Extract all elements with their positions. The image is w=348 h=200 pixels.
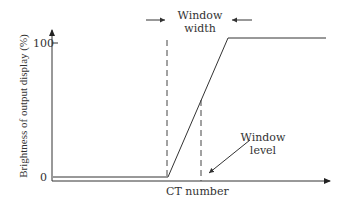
- window-width-line2: width: [175, 22, 225, 35]
- y-tick-100: 100: [33, 37, 54, 50]
- window-width-line1: Window: [175, 9, 225, 22]
- x-axis-label: CT number: [166, 185, 229, 198]
- y-tick-0: 0: [40, 171, 47, 184]
- window-level-line2: level: [238, 144, 288, 157]
- y-axis-label: Brightness of output display (%): [17, 21, 29, 191]
- window-level-line1: Window: [238, 131, 288, 144]
- window-level-diagram: Brightness of output display (%) 100 0 W…: [0, 0, 348, 200]
- diagram-graphics: [0, 0, 348, 200]
- window-level-label: Window level: [238, 131, 288, 157]
- window-width-label: Window width: [175, 9, 225, 35]
